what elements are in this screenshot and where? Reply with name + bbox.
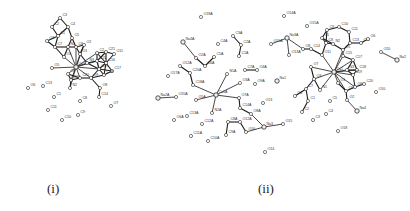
atom-label: O8 [70,69,75,73]
atom-label: C21 [108,47,115,51]
atom-label: C19 [355,70,362,74]
panel-ii-atoms: O18ANa4AC3AC4AC2AO2AC5AC1AO12AC6AO17AC20… [156,11,406,153]
atom-label: C10A [210,136,220,140]
atom-N1 [66,45,69,48]
atom-O9A [253,82,256,85]
atom-label: O17A [170,71,180,75]
atom-O3A [238,81,241,84]
atom-O20A [174,95,177,98]
atom-N1A [225,72,228,75]
atom-label: C5 [332,96,337,100]
atom-label: C3A [235,31,243,35]
atom-O8 [301,47,304,50]
atom-label: C1 [324,33,329,37]
bond-O9-O8b [91,78,100,88]
atom-O16 [244,130,247,133]
atom-label: C18A [195,80,205,84]
atom-O7 [109,104,112,107]
atom-O5 [50,66,53,69]
atom-label: C3 [315,115,320,119]
atom-N1 [318,88,321,91]
atom-label: C1 [56,92,61,96]
atom-label: Na2A [160,93,170,97]
atom-C1A [237,54,240,57]
atom-label: O6 [30,83,35,87]
atom-label: O4 [66,52,71,56]
atom-O3 [45,39,48,42]
atom-label: C1 [60,31,65,35]
atom-C20 [78,76,81,79]
atom-C2 [50,25,53,28]
atom-label: C8 [82,96,87,100]
atom-label: O6 [370,34,375,38]
atom-label: N2 [335,39,340,43]
bond-O20-Na2 [381,52,397,60]
atom-label: C7A [247,65,255,69]
atom-O13 [261,101,264,104]
atom-label: C3 [62,13,67,17]
bond-O8A-Na3 [251,114,264,127]
atom-O14A [282,14,285,17]
panel-label-ii: (ii) [258,181,274,197]
atom-label: C8 [328,38,333,42]
atom-C15 [95,59,98,62]
atom-O12A2 [238,120,241,123]
atom-label: C1 [310,96,315,100]
atom-C2A [239,43,242,46]
atom-label: O18A [203,12,213,16]
atom-label: C9A [228,130,236,134]
atom-label: C2 [304,107,309,111]
atom-C18A [191,83,194,86]
atom-O4 [293,94,296,97]
atom-label: O20A [178,92,188,96]
atom-label: Na3A [289,33,299,37]
atom-label: O8A [253,109,261,113]
atom-label: O4A [259,65,267,69]
panel-i-structure: C3C2C4C1C5O3C7N1C6O2O1O4C2C21O11O5Ca1N3C… [26,13,123,121]
atom-label: N2A [214,108,222,112]
atom-C19 [351,73,354,76]
atom-C1 [56,34,59,37]
panel-label-i: (i) [47,181,59,197]
atom-label: Ca1 [78,62,85,66]
atom-O11 [320,53,323,56]
atom-C12A [200,122,203,125]
atom-C13A [185,114,188,117]
atom-label: C13A [189,111,199,115]
atom-label: O11 [324,50,331,54]
atom-label: C15 [345,51,352,55]
atom-O2A [194,56,197,59]
atom-label: O8 [102,83,107,87]
atom-O6 [26,86,29,89]
atom-O9 [353,85,356,88]
panel-ii-structure: O18ANa4AC3AC4AC2AO2AC5AC1AO12AC6AO17AC20… [156,11,406,153]
atom-O8 [66,72,69,75]
atom-label: C17 [114,66,121,70]
atom-C3 [311,118,314,121]
atom-C6 [74,45,77,48]
atom-label: O5 [54,63,59,67]
atom-label: C12A [204,119,214,123]
atom-label: C20A [192,68,202,72]
atom-label: C10 [341,22,348,26]
atom-label: C7 [308,84,313,88]
atom-label: O18 [340,126,347,130]
atom-C21 [104,50,107,53]
atom-N3 [345,68,348,71]
atom-label: O3 [316,74,321,78]
atom-O18A [199,15,202,18]
atom-label: C4A [220,39,228,43]
atom-O5 [341,48,344,51]
atom-C18 [102,73,105,76]
atom-C15 [341,54,344,57]
atom-label: O7 [113,101,118,105]
atom-N2A [210,111,213,114]
atom-label: N1 [70,42,75,46]
atom-label: C1A [241,51,249,55]
atom-label: C4 [70,22,75,26]
atom-label: Ca1A [218,90,228,94]
atom-C10 [337,25,340,28]
atom-label: O1 [340,78,345,82]
atom-O12A [178,64,181,67]
atom-label: O12A [242,117,252,121]
